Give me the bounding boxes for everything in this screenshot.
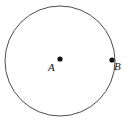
diagram-canvas <box>0 0 129 124</box>
point-b-label: B <box>114 61 121 72</box>
point-a-label: A <box>48 62 55 73</box>
point-a-dot <box>57 56 62 61</box>
circle-diagram-figure: A B <box>0 0 129 124</box>
